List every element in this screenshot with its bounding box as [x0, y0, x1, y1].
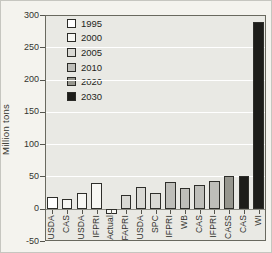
x-label-usda: USDA [135, 215, 145, 239]
bar-usda-1995 [47, 197, 58, 209]
y-tick-50 [40, 176, 45, 177]
x-label-wb: WB [179, 215, 189, 229]
x-tick-11 [214, 210, 215, 214]
x-tick-0 [52, 210, 53, 214]
x-label-wi: WI [253, 215, 263, 226]
x-label-ifpri: IFPRI [208, 215, 218, 238]
legend-item-1995: 1995 [67, 16, 102, 31]
bar-cas-2000 [62, 199, 73, 209]
x-tick-3 [97, 210, 98, 214]
legend-swatch-2020 [67, 77, 76, 86]
x-tick-4 [111, 210, 112, 214]
y-tick-label--50: -50 [11, 236, 39, 247]
bar-spc-2005 [150, 193, 161, 209]
legend-label-2010: 2010 [81, 62, 102, 73]
x-tick-1 [67, 210, 68, 214]
y-tick-label-150: 150 [11, 106, 39, 117]
bar-wi-2030 [253, 22, 264, 209]
y-tick-label-50: 50 [11, 171, 39, 182]
x-tick-13 [244, 210, 245, 214]
x-tick-6 [141, 210, 142, 214]
legend-swatch-2030 [67, 92, 76, 101]
bar-wb-2010 [180, 188, 191, 209]
bar-ifpri-2010 [209, 181, 220, 209]
y-tick-200 [40, 80, 45, 81]
legend-swatch-1995 [67, 19, 76, 28]
x-label-actual: Actual [105, 215, 115, 240]
legend-label-2020: 2020 [81, 76, 102, 87]
x-tick-9 [185, 210, 186, 214]
x-label-cas: CAS [61, 215, 71, 233]
legend-item-2030: 2030 [67, 89, 102, 104]
x-label-spc: SPC [150, 215, 160, 233]
x-label-fapri: FAPRI [120, 215, 130, 241]
y-tick-100 [40, 144, 45, 145]
bar-cas-2010 [194, 185, 205, 209]
x-label-cass: CASS [223, 215, 233, 239]
bar-usda-2000 [77, 193, 88, 209]
legend-swatch-2010 [67, 63, 76, 72]
y-tick-label-300: 300 [11, 10, 39, 21]
legend: 199520002005201020202030 [67, 16, 102, 104]
y-tick-150 [40, 112, 45, 113]
bar-ifpri-2010 [165, 182, 176, 209]
y-axis-title: Million tons [0, 89, 14, 169]
x-tick-2 [82, 210, 83, 214]
x-label-usda: USDA [46, 215, 56, 239]
bar-cass-2020 [224, 176, 235, 208]
bar-ifpri-2000 [91, 183, 102, 209]
legend-label-2030: 2030 [81, 91, 102, 102]
gridline-200 [46, 80, 265, 81]
y-tick-300 [40, 15, 45, 16]
legend-item-2000: 2000 [67, 31, 102, 46]
bar-fapri-2005 [121, 195, 132, 209]
legend-label-1995: 1995 [81, 18, 102, 29]
x-tick-10 [200, 210, 201, 214]
x-tick-7 [156, 210, 157, 214]
legend-swatch-2000 [67, 33, 76, 42]
y-tick-0 [40, 209, 45, 210]
y-tick-label-250: 250 [11, 42, 39, 53]
x-tick-5 [126, 210, 127, 214]
bar-chart-figure: Million tons 300250200150100500-50 19952… [0, 0, 272, 253]
x-tick-8 [170, 210, 171, 214]
x-label-ifpri: IFPRI [164, 215, 174, 238]
x-label-cas: CAS [194, 215, 204, 233]
y-tick--50 [40, 241, 45, 242]
legend-item-2010: 2010 [67, 60, 102, 75]
legend-label-2000: 2000 [81, 32, 102, 43]
x-label-usda: USDA [76, 215, 86, 239]
gridline-150 [46, 112, 265, 113]
bar-usda-2005 [136, 187, 147, 208]
gridline-100 [46, 144, 265, 145]
y-tick-250 [40, 47, 45, 48]
legend-item-2020: 2020 [67, 74, 102, 89]
x-tick-14 [259, 210, 260, 214]
x-tick-12 [229, 210, 230, 214]
y-tick-label-200: 200 [11, 74, 39, 85]
legend-label-2005: 2005 [81, 47, 102, 58]
y-tick-label-0: 0 [11, 203, 39, 214]
y-tick-label-100: 100 [11, 139, 39, 150]
bar-cas-2030 [239, 176, 250, 208]
x-label-ifpri: IFPRI [91, 215, 101, 238]
gridline-250 [46, 47, 265, 48]
legend-swatch-2005 [67, 48, 76, 57]
x-label-cas: CAS [238, 215, 248, 233]
